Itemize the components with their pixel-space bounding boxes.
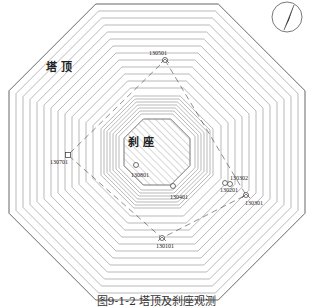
survey-point-130701: 130701 <box>50 153 71 166</box>
survey-point-130301: 130301 <box>242 193 263 207</box>
point-label: 130301 <box>245 200 263 206</box>
point-label: 130201 <box>220 187 238 193</box>
survey-point-130302: 130302 <box>228 175 249 187</box>
survey-point-130101: 130101 <box>156 236 174 250</box>
spire-base-label: 刹 座 <box>128 135 154 149</box>
point-label: 130501 <box>149 50 167 56</box>
figure-caption: 图9-1-2 塔顶及刹座观测 <box>0 292 313 308</box>
north-arrow-icon <box>272 2 302 32</box>
tower-top-label: 塔 顶 <box>46 60 72 74</box>
point-label: 130801 <box>131 172 149 178</box>
point-label: 130401 <box>170 194 188 200</box>
survey-point-130501: 130501 <box>149 50 169 63</box>
point-label: 130101 <box>156 243 174 249</box>
point-label: 130701 <box>50 159 68 165</box>
point-label: 130302 <box>230 175 248 181</box>
